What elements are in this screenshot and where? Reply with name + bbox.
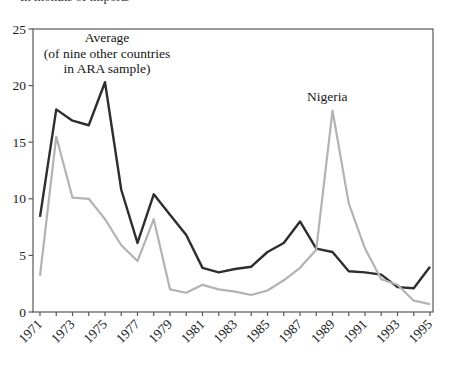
x-tick-label: 1981 bbox=[178, 317, 208, 347]
y-tick-label: 0 bbox=[19, 305, 26, 320]
x-tick-label: 1993 bbox=[373, 316, 403, 346]
x-tick-label: 1985 bbox=[243, 316, 273, 346]
x-tick-label: 1983 bbox=[210, 316, 240, 346]
average-line bbox=[40, 82, 430, 288]
figure-page: { "page": { "top_clipped_text": "In mont… bbox=[0, 0, 450, 365]
y-tick-label: 20 bbox=[13, 78, 27, 93]
nigeria-series-label: Nigeria bbox=[307, 89, 347, 105]
x-tick-label: 1975 bbox=[80, 316, 110, 346]
x-tick-label: 1973 bbox=[48, 316, 78, 346]
average-series-label-line3: in ARA sample) bbox=[7, 61, 207, 77]
x-tick-label: 1989 bbox=[308, 316, 338, 346]
x-tick-label: 1977 bbox=[113, 316, 143, 346]
x-tick-label: 1987 bbox=[275, 316, 305, 346]
y-tick-label: 15 bbox=[13, 135, 27, 150]
y-tick-label: 10 bbox=[13, 191, 27, 206]
x-tick-label: 1995 bbox=[405, 316, 435, 346]
average-series-label-line1: Average bbox=[7, 30, 207, 46]
average-series-label: Average (of nine other countries in ARA … bbox=[7, 30, 207, 77]
x-tick-label: 1979 bbox=[145, 316, 175, 346]
x-tick-label: 1971 bbox=[15, 317, 45, 347]
x-tick-label: 1991 bbox=[340, 317, 370, 347]
nigeria-line bbox=[40, 111, 430, 305]
y-tick-label: 5 bbox=[19, 248, 26, 263]
average-series-label-line2: (of nine other countries bbox=[7, 46, 207, 62]
